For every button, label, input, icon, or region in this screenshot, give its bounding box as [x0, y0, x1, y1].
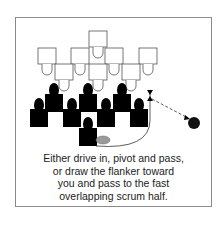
overlapping-player — [188, 117, 200, 129]
ball — [96, 136, 110, 144]
caption-line-3: you and pass to the fast — [15, 177, 212, 190]
caption-line-4: overlapping scrum half. — [15, 190, 212, 203]
caption-line-2: or draw the flanker toward — [15, 165, 212, 178]
defender-players — [38, 31, 157, 91]
pass-line — [152, 99, 188, 118]
caption: Either drive in, pivot and pass, or draw… — [15, 152, 212, 202]
caption-line-1: Either drive in, pivot and pass, — [15, 152, 212, 165]
attacking-players — [30, 83, 148, 146]
